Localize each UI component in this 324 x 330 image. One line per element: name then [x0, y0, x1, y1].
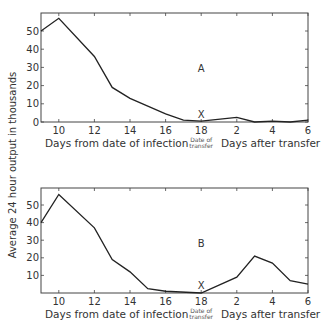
- x-tick-label: 4: [269, 125, 275, 136]
- x-tick-label: 12: [88, 125, 101, 136]
- x-tick-label: 6: [305, 125, 311, 136]
- x-tick-label: 10: [52, 125, 65, 136]
- transfer-marker: X: [198, 109, 205, 120]
- y-tick-label: 0: [33, 117, 39, 128]
- data-line: [41, 18, 308, 122]
- x-tick-label: 14: [124, 125, 137, 136]
- plot-frame: [41, 188, 308, 293]
- panel-letter: B: [198, 238, 205, 249]
- data-line: [41, 194, 308, 293]
- transfer-marker: X: [198, 280, 205, 291]
- figure: Average 24 hour output in thousands 1012…: [0, 0, 324, 330]
- x-tick-label: 4: [269, 296, 275, 307]
- y-axis-label: Average 24 hour output in thousands: [7, 72, 18, 259]
- plot-frame: [41, 13, 308, 122]
- y-tick-label: 20: [26, 252, 39, 263]
- x-tick-label: 16: [159, 296, 172, 307]
- x-tick-label: 14: [124, 296, 137, 307]
- x-tick-label: 16: [159, 125, 172, 136]
- x-tick-label: 12: [88, 296, 101, 307]
- x-tick-label: 2: [234, 125, 240, 136]
- x-tick-label: 2: [234, 296, 240, 307]
- y-tick-label: 50: [26, 200, 39, 211]
- y-tick-label: 40: [26, 217, 39, 228]
- y-tick-label: 30: [26, 235, 39, 246]
- y-tick-label: 40: [26, 44, 39, 55]
- y-tick-label: 20: [26, 80, 39, 91]
- x-tick-label: 18: [195, 296, 208, 307]
- transfer-label: transfer: [189, 313, 213, 320]
- chart-panel-b: 10121416182461020304050XBDate oftransfer…: [26, 188, 321, 320]
- x-axis-label-right: Days after transfer: [221, 137, 321, 149]
- y-tick-label: 10: [26, 270, 39, 281]
- x-axis-label-left: Days from date of infection: [45, 137, 188, 149]
- y-tick-label: 10: [26, 98, 39, 109]
- x-axis-label-right: Days after transfer: [221, 308, 321, 320]
- y-tick-label: 30: [26, 62, 39, 73]
- y-tick-label: 50: [26, 26, 39, 37]
- x-tick-label: 6: [305, 296, 311, 307]
- x-tick-label: 10: [52, 296, 65, 307]
- transfer-label: transfer: [189, 142, 213, 149]
- panel-letter: A: [198, 63, 205, 74]
- x-tick-label: 18: [195, 125, 208, 136]
- x-axis-label-left: Days from date of infection: [45, 308, 188, 320]
- chart-panel-a: 101214161824601020304050XADate oftransfe…: [26, 13, 321, 149]
